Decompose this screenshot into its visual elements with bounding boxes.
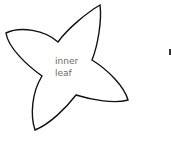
label-line-1: inner bbox=[55, 55, 78, 67]
leaf-label: inner leaf bbox=[55, 55, 78, 79]
leaf-shape bbox=[0, 0, 172, 164]
label-line-2: leaf bbox=[55, 67, 78, 79]
edge-mark bbox=[169, 49, 171, 55]
